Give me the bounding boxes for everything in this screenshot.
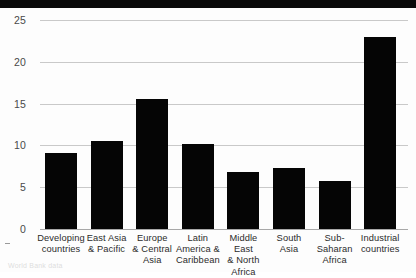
plot-area: 0510152025: [40, 20, 408, 229]
x-tick-label-line: Africa: [219, 267, 267, 278]
x-tick-label-line: Latin: [174, 233, 222, 244]
bar: [45, 153, 77, 229]
bar: [136, 99, 168, 229]
y-axis-tick-label: 25: [0, 15, 26, 25]
x-tick-label: LatinAmerica &Caribbean: [174, 233, 222, 267]
x-tick-label: East Asia& Pacific: [83, 233, 131, 255]
x-tick-label-line: & Pacific: [83, 244, 131, 255]
x-tick-label-line: Caribbean: [174, 255, 222, 266]
gridline: [40, 104, 408, 105]
x-tick-label: Developingcountries: [37, 233, 85, 255]
x-tick-label-line: Asia: [128, 255, 176, 266]
y-axis-tick-label: 20: [0, 57, 26, 67]
x-tick-label-line: Developing: [37, 233, 85, 244]
x-tick-label-line: America &: [174, 244, 222, 255]
x-tick-label-line: South: [265, 233, 313, 244]
x-tick-label-line: East Asia: [83, 233, 131, 244]
y-axis-tick-label: 10: [0, 140, 26, 150]
figure-caption: World Bank data: [8, 262, 63, 269]
x-tick-label: Europe& CentralAsia: [128, 233, 176, 267]
y-axis-tick-label: 0: [0, 224, 26, 234]
x-tick-label-line: Middle East: [219, 233, 267, 255]
bar: [273, 168, 305, 229]
bar: [319, 181, 351, 229]
bar: [364, 37, 396, 229]
y-axis-tick-label: 5: [0, 182, 26, 192]
margin-tick-mark: [5, 243, 10, 244]
bar: [227, 172, 259, 229]
x-tick-label: Sub-SaharanAfrica: [311, 233, 359, 267]
x-tick-label-line: Europe: [128, 233, 176, 244]
y-axis-tick-label: 15: [0, 99, 26, 109]
x-tick-label-line: Industrial: [356, 233, 404, 244]
x-tick-label-line: Asia: [265, 244, 313, 255]
x-tick-label-line: & Central: [128, 244, 176, 255]
x-tick-label: Industrialcountries: [356, 233, 404, 255]
gridline: [40, 62, 408, 63]
x-axis-line: [40, 229, 408, 230]
bar: [182, 144, 214, 229]
bar: [91, 141, 123, 229]
x-tick-label-line: countries: [356, 244, 404, 255]
x-tick-label: Middle East& NorthAfrica: [219, 233, 267, 278]
x-tick-label-line: & North: [219, 255, 267, 266]
x-tick-label-line: Sub-Saharan: [311, 233, 359, 255]
x-tick-label: SouthAsia: [265, 233, 313, 255]
x-tick-label-line: Africa: [311, 255, 359, 266]
x-tick-label-line: countries: [37, 244, 85, 255]
gridline: [40, 20, 408, 21]
top-black-band: [0, 0, 416, 8]
